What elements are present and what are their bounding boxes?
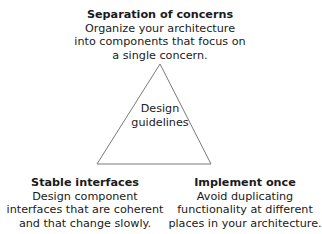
- block-text-line: a single concern.: [60, 49, 260, 63]
- block-title: Implement once: [168, 176, 322, 190]
- block-title: Stable interfaces: [0, 176, 170, 190]
- separation-of-concerns-block: Separation of concerns Organize your arc…: [60, 8, 260, 62]
- implement-once-block: Implement once Avoid duplicating functio…: [168, 176, 322, 230]
- block-text-line: Design component: [0, 190, 170, 204]
- block-text-line: interfaces that are coherent: [0, 203, 170, 217]
- block-text-line: Avoid duplicating: [168, 190, 322, 204]
- block-text-line: functionality at different: [168, 203, 322, 217]
- center-label-line2: guidelines: [118, 116, 202, 130]
- block-text-line: into components that focus on: [60, 35, 260, 49]
- center-label: Design guidelines: [118, 102, 202, 130]
- block-title: Separation of concerns: [60, 8, 260, 22]
- stable-interfaces-block: Stable interfaces Design component inter…: [0, 176, 170, 230]
- block-text-line: places in your architecture.: [168, 217, 322, 231]
- block-text-line: Organize your architecture: [60, 22, 260, 36]
- block-text-line: and that change slowly.: [0, 217, 170, 231]
- center-label-line1: Design: [118, 102, 202, 116]
